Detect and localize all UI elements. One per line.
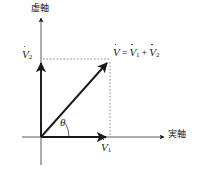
imaginary-axis-label: 虚軸	[31, 4, 49, 13]
phasor-diagram-canvas	[0, 0, 198, 174]
real-axis-label: 実軸	[168, 130, 186, 139]
plus-sign: +	[142, 47, 148, 58]
resultant-term2-symbol: V	[149, 47, 156, 58]
vector-v2-label: V2	[22, 49, 32, 61]
phasor-diagram: 虚軸 実軸 V2 V1 θ V=V1+V2	[0, 0, 198, 174]
equals-sign: =	[122, 47, 128, 58]
theta-arc	[66, 124, 69, 138]
vector-resultant	[41, 63, 107, 137]
resultant-equation-label: V=V1+V2	[113, 47, 159, 59]
v1-symbol: V	[101, 142, 108, 153]
angle-theta-label: θ	[60, 117, 65, 128]
resultant-term1-subscript: 1	[136, 51, 140, 59]
v2-symbol: V	[22, 49, 29, 60]
resultant-lhs-symbol: V	[113, 47, 120, 58]
vector-v1-label: V1	[101, 142, 111, 154]
v1-subscript: 1	[108, 146, 112, 154]
resultant-term1-symbol: V	[129, 47, 136, 58]
resultant-term2-subscript: 2	[156, 51, 160, 59]
v2-subscript: 2	[29, 53, 33, 61]
